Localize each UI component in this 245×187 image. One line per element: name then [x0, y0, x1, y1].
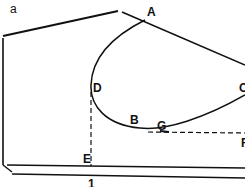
diagram: a A D B G C E F 1 [0, 0, 245, 187]
roof-left-line [3, 11, 118, 36]
label-e: E [83, 152, 91, 166]
roof-right-line [122, 12, 245, 65]
label-a: A [147, 5, 156, 19]
dimension-label: 1 [88, 177, 95, 187]
panel-label: a [10, 2, 17, 16]
label-c: C [239, 81, 245, 95]
base-line-lower [12, 174, 245, 178]
base-line-upper [7, 165, 245, 168]
label-f: F [241, 136, 245, 150]
curve-boundary [91, 20, 245, 128]
label-g: G [157, 119, 166, 133]
label-b: B [130, 113, 139, 127]
label-d: D [93, 81, 102, 95]
base-corner-line [3, 165, 12, 172]
